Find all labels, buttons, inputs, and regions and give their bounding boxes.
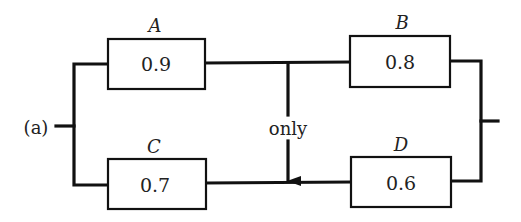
component-c-value: 0.7	[140, 174, 170, 196]
component-a-value: 0.9	[141, 53, 171, 75]
wire-a-b	[205, 62, 350, 63]
left-bus	[74, 64, 107, 185]
component-c: C 0.7	[108, 136, 206, 210]
component-d-value: 0.6	[386, 172, 416, 194]
component-b-value: 0.8	[385, 51, 415, 73]
reliability-diagram: (a) only A 0.9 B 0.8 C 0.7 D 0.6	[0, 0, 521, 222]
component-d: D 0.6	[351, 134, 451, 208]
connector-label: only	[269, 118, 308, 139]
component-b: B 0.8	[350, 12, 450, 88]
component-c-label: C	[147, 136, 161, 157]
right-bus	[450, 61, 481, 181]
component-b-label: B	[394, 12, 408, 33]
component-a: A 0.9	[108, 15, 205, 90]
wire-c-d	[206, 182, 351, 183]
component-d-label: D	[393, 134, 409, 155]
input-label: (a)	[24, 117, 49, 138]
component-a-label: A	[147, 15, 162, 36]
